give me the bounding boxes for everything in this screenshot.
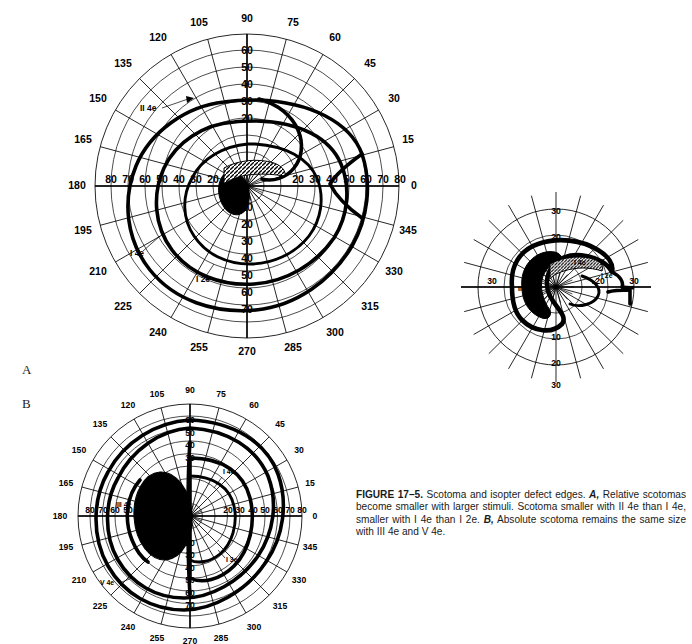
svg-text:30: 30: [629, 276, 639, 286]
svg-text:60: 60: [329, 31, 341, 43]
svg-text:90: 90: [241, 12, 253, 24]
visual-field-chart-b: 8070 6050 4030 2030 4050 6070 80 6050 40…: [38, 398, 358, 644]
svg-text:10: 10: [551, 332, 561, 342]
svg-text:180: 180: [53, 511, 68, 521]
svg-text:40: 40: [185, 563, 195, 573]
svg-text:20: 20: [551, 232, 561, 242]
svg-text:30: 30: [294, 445, 304, 455]
svg-text:40: 40: [185, 440, 195, 450]
svg-text:345: 345: [303, 542, 318, 552]
svg-text:150: 150: [72, 445, 87, 455]
svg-text:80: 80: [297, 505, 307, 515]
label-ii-4e: II 4e: [140, 103, 157, 113]
svg-text:255: 255: [190, 341, 208, 353]
absolute-scotoma: [131, 470, 195, 562]
svg-text:15: 15: [305, 478, 315, 488]
chart-a-radial-ticks: 8070 6050 4030 20 2030 4050 6070 80: [105, 173, 406, 185]
svg-text:50: 50: [185, 575, 195, 585]
svg-text:50: 50: [156, 173, 168, 185]
svg-text:15: 15: [402, 133, 414, 145]
svg-text:135: 135: [93, 419, 108, 429]
page-running-header: [22, 0, 642, 11]
svg-text:255: 255: [150, 633, 165, 643]
svg-text:30: 30: [235, 505, 245, 515]
svg-text:30: 30: [190, 173, 202, 185]
caption-title: Scotoma and isopter defect edges.: [423, 489, 589, 500]
svg-text:225: 225: [114, 300, 132, 312]
inset-label-i-2e: I 2e: [601, 272, 613, 279]
svg-text:345: 345: [399, 224, 417, 236]
svg-text:30: 30: [551, 206, 561, 216]
svg-text:60: 60: [185, 588, 195, 598]
inset-label-ii-4e: II 4e: [518, 285, 532, 292]
label-i-4e: I 4e: [130, 248, 144, 258]
figure-caption: FIGURE 17–5. Scotoma and isopter defect …: [356, 489, 686, 539]
svg-text:30: 30: [148, 505, 158, 515]
caption-part-a-marker: A,: [589, 489, 599, 500]
label-iii-4e: III 4e: [116, 501, 131, 508]
svg-text:60: 60: [360, 173, 372, 185]
svg-text:20: 20: [241, 112, 253, 124]
svg-text:50: 50: [185, 428, 195, 438]
svg-text:80: 80: [105, 173, 117, 185]
svg-text:80: 80: [394, 173, 406, 185]
svg-text:60: 60: [139, 173, 151, 185]
svg-text:210: 210: [89, 265, 107, 277]
svg-text:70: 70: [122, 173, 134, 185]
svg-text:285: 285: [284, 341, 302, 353]
svg-text:60: 60: [241, 286, 253, 298]
svg-text:240: 240: [149, 326, 167, 338]
svg-text:120: 120: [149, 31, 167, 43]
svg-text:20: 20: [551, 358, 561, 368]
svg-text:30: 30: [185, 453, 195, 463]
label-i-4e-b: I 4e: [223, 468, 235, 475]
panel-label-b: B: [22, 396, 31, 412]
svg-text:225: 225: [93, 601, 108, 611]
inset-label-i-4e: I 4e: [574, 259, 586, 266]
svg-text:70: 70: [377, 173, 389, 185]
svg-text:150: 150: [89, 92, 107, 104]
svg-text:120: 120: [121, 400, 136, 410]
svg-text:50: 50: [241, 269, 253, 281]
figure-number: FIGURE 17–5.: [356, 489, 423, 500]
svg-text:60: 60: [273, 505, 283, 515]
svg-text:70: 70: [285, 505, 295, 515]
svg-text:240: 240: [121, 622, 136, 632]
svg-text:135: 135: [114, 57, 132, 69]
svg-text:165: 165: [59, 478, 74, 488]
svg-text:40: 40: [173, 173, 185, 185]
svg-text:50: 50: [260, 505, 270, 515]
svg-text:270: 270: [183, 636, 198, 644]
svg-text:60: 60: [249, 400, 259, 410]
svg-text:70: 70: [241, 303, 253, 315]
svg-text:60: 60: [185, 415, 195, 425]
svg-text:315: 315: [273, 601, 288, 611]
svg-text:30: 30: [241, 235, 253, 247]
svg-text:75: 75: [287, 16, 299, 28]
svg-text:20: 20: [241, 218, 253, 230]
svg-text:80: 80: [85, 505, 95, 515]
visual-field-chart-a: 8070 6050 4030 20 2030 4050 6070 80 6050…: [10, 18, 430, 366]
svg-text:20: 20: [207, 173, 219, 185]
svg-text:90: 90: [185, 385, 195, 395]
svg-text:60: 60: [241, 44, 253, 56]
svg-text:330: 330: [385, 265, 403, 277]
inset-radial-ticks: 30 20 10 20 30 30 20 30: [487, 206, 639, 390]
svg-text:105: 105: [190, 16, 208, 28]
svg-text:30: 30: [551, 380, 561, 390]
svg-text:0: 0: [411, 179, 417, 191]
svg-text:285: 285: [214, 633, 229, 643]
svg-text:20: 20: [292, 173, 304, 185]
svg-text:210: 210: [72, 575, 87, 585]
label-i-3e: I 3e: [226, 556, 238, 563]
svg-text:300: 300: [247, 622, 262, 632]
svg-text:20: 20: [223, 505, 233, 515]
svg-text:70: 70: [98, 505, 108, 515]
svg-text:30: 30: [185, 550, 195, 560]
svg-text:300: 300: [326, 326, 344, 338]
svg-text:270: 270: [238, 345, 256, 357]
svg-text:30: 30: [309, 173, 321, 185]
svg-text:50: 50: [241, 61, 253, 73]
svg-text:45: 45: [364, 57, 376, 69]
svg-text:105: 105: [150, 389, 165, 399]
